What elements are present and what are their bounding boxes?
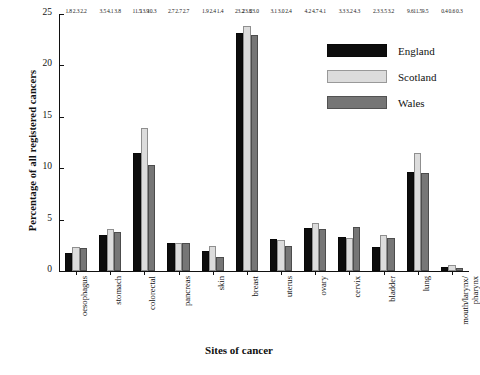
bar-slot: 4.7 <box>312 14 319 271</box>
y-tick-label: 20 <box>43 58 53 68</box>
bar-england[interactable]: 1.8 <box>65 253 72 272</box>
bar-group: 2.72.72.7 <box>162 14 196 271</box>
bar-scotland[interactable]: 3.0 <box>277 240 284 271</box>
bar-wales[interactable]: 3.8 <box>114 232 121 271</box>
bar-slot: 2.4 <box>209 14 216 271</box>
y-axis-tick: 10 <box>26 168 59 169</box>
bar-scotland[interactable]: 2.4 <box>209 246 216 271</box>
bar-england[interactable]: 23.2 <box>236 33 243 271</box>
x-category-label: stomach <box>114 276 124 305</box>
bar-slot: 4.2 <box>304 14 311 271</box>
bar-england[interactable]: 3.1 <box>270 239 277 271</box>
bar-slot: 4.1 <box>319 14 326 271</box>
bar-slot: 11.5 <box>133 14 140 271</box>
bar-england[interactable]: 9.6 <box>407 172 414 271</box>
bar-slot: 2.2 <box>80 14 87 271</box>
bar-value-label: 3.1 <box>270 8 277 14</box>
legend-swatch <box>327 70 387 83</box>
bar-value-label: 1.9 <box>202 8 209 14</box>
bar-slot: 13.9 <box>141 14 148 271</box>
bar-slot: 2.3 <box>72 14 79 271</box>
bar-wales[interactable]: 1.4 <box>216 257 223 271</box>
x-tick-mark <box>247 271 248 275</box>
y-axis-tick: 15 <box>26 117 59 118</box>
x-axis-line <box>59 271 469 272</box>
legend-swatch <box>327 96 387 109</box>
bar-slot: 23.0 <box>251 14 258 271</box>
bar-group-bars: 23.223.823.0 <box>230 14 264 271</box>
bar-value-label: 2.4 <box>209 8 216 14</box>
bar-value-label: 9.5 <box>422 8 429 14</box>
legend-label: Scotland <box>398 71 437 83</box>
bar-group-bars: 11.513.910.3 <box>127 14 161 271</box>
bar-value-label: 3.3 <box>339 8 346 14</box>
bar-value-label: 2.2 <box>80 8 87 14</box>
bar-wales[interactable]: 3.2 <box>387 238 394 271</box>
bar-england[interactable]: 0.4 <box>441 267 448 271</box>
bar-value-label: 2.4 <box>285 8 292 14</box>
bar-slot: 2.7 <box>182 14 189 271</box>
bar-england[interactable]: 2.7 <box>167 243 174 271</box>
bar-value-label: 23.0 <box>250 8 259 14</box>
bar-group: 1.92.41.4 <box>196 14 230 271</box>
x-category-label: lung <box>422 276 432 291</box>
bar-group: 3.54.13.8 <box>93 14 127 271</box>
bar-group: 11.513.910.3 <box>127 14 161 271</box>
bar-wales[interactable]: 4.1 <box>319 229 326 271</box>
x-category-label: pancreas <box>183 276 193 306</box>
bar-wales[interactable]: 2.7 <box>182 243 189 271</box>
x-category-label: skin <box>217 276 227 290</box>
bar-wales[interactable]: 4.3 <box>353 227 360 271</box>
bar-scotland[interactable]: 13.9 <box>141 128 148 271</box>
bar-slot: 1.4 <box>216 14 223 271</box>
bar-england[interactable]: 1.9 <box>202 251 209 271</box>
bar-value-label: 1.8 <box>65 8 72 14</box>
bar-scotland[interactable]: 2.3 <box>72 247 79 271</box>
legend-item-wales[interactable]: Wales <box>327 92 467 113</box>
bar-slot: 23.8 <box>243 14 250 271</box>
x-category-label: mouth/larynx/pharynx <box>461 276 480 325</box>
bar-scotland[interactable]: 4.1 <box>107 229 114 271</box>
bar-value-label: 3.2 <box>388 8 395 14</box>
bar-england[interactable]: 3.5 <box>99 235 106 271</box>
bar-value-label: 4.1 <box>107 8 114 14</box>
bar-wales[interactable]: 9.5 <box>421 173 428 271</box>
bar-group-bars: 1.92.41.4 <box>196 14 230 271</box>
legend-item-scotland[interactable]: Scotland <box>327 66 467 87</box>
legend-swatch <box>327 44 387 57</box>
bar-scotland[interactable]: 2.7 <box>175 243 182 271</box>
legend-item-england[interactable]: England <box>327 40 467 61</box>
bar-scotland[interactable]: 23.8 <box>243 26 250 271</box>
bar-group: 23.223.823.0 <box>230 14 264 271</box>
bar-wales[interactable]: 2.2 <box>80 248 87 271</box>
bar-wales[interactable]: 23.0 <box>251 35 258 271</box>
x-tick-mark <box>213 271 214 275</box>
bar-value-label: 3.5 <box>100 8 107 14</box>
bar-england[interactable]: 4.2 <box>304 228 311 271</box>
bar-value-label: 2.7 <box>183 8 190 14</box>
x-tick-mark <box>281 271 282 275</box>
bar-scotland[interactable]: 3.2 <box>346 238 353 271</box>
bar-value-label: 4.1 <box>319 8 326 14</box>
bar-value-label: 10.3 <box>147 8 156 14</box>
bar-wales[interactable]: 2.4 <box>285 246 292 271</box>
x-tick-mark <box>349 271 350 275</box>
bar-scotland[interactable]: 11.5 <box>414 153 421 271</box>
bar-england[interactable]: 2.3 <box>372 247 379 271</box>
y-tick-label: 15 <box>43 110 53 120</box>
bar-slot: 3.0 <box>277 14 284 271</box>
y-tick-mark <box>59 271 64 272</box>
bar-slot: 10.3 <box>148 14 155 271</box>
bar-scotland[interactable]: 4.7 <box>312 223 319 271</box>
bar-england[interactable]: 3.3 <box>338 237 345 271</box>
bar-scotland[interactable]: 3.5 <box>380 235 387 271</box>
bar-slot: 23.2 <box>236 14 243 271</box>
bar-wales[interactable]: 0.3 <box>456 268 463 271</box>
bar-slot: 1.9 <box>202 14 209 271</box>
bar-wales[interactable]: 10.3 <box>148 165 155 271</box>
x-category-label: colorectal <box>148 276 158 310</box>
legend-label: England <box>398 45 435 57</box>
y-tick-label: 0 <box>47 264 52 274</box>
bar-england[interactable]: 11.5 <box>133 153 140 271</box>
